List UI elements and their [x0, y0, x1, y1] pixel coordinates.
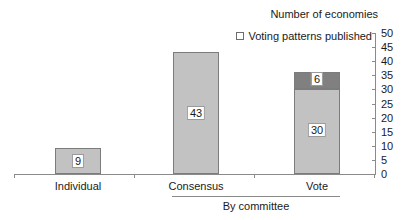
- x-axis-tick: [254, 175, 255, 178]
- bar-value-vote-upper: 6: [311, 72, 323, 86]
- x-axis-tick: [134, 175, 135, 178]
- y-axis-label: 5: [381, 154, 387, 165]
- category-label-consensus: Consensus: [168, 180, 223, 193]
- bar-value-vote-base: 30: [308, 123, 326, 137]
- bar-individual[interactable]: 9: [55, 148, 101, 174]
- y-axis-tick: [372, 132, 376, 133]
- y-axis-tick: [372, 118, 376, 119]
- y-axis-label: 40: [381, 56, 393, 67]
- category-label-individual: Individual: [55, 180, 101, 193]
- bar-consensus[interactable]: 43: [173, 52, 219, 174]
- y-axis-label: 25: [381, 98, 393, 109]
- y-axis-label: 35: [381, 70, 393, 81]
- y-axis-tick: [372, 104, 376, 105]
- group-bracket-rule: [172, 196, 340, 197]
- x-axis-baseline: [14, 174, 375, 175]
- y-axis-label: 10: [381, 140, 393, 151]
- y-axis-tick: [372, 89, 376, 90]
- y-axis-tick: [372, 174, 376, 175]
- group-bracket-label: By committee: [223, 200, 290, 213]
- y-axis-tick: [372, 160, 376, 161]
- y-axis-label: 20: [381, 112, 393, 123]
- y-axis-label: 15: [381, 126, 393, 137]
- y-axis-label: 45: [381, 42, 393, 53]
- x-axis-tick: [374, 175, 375, 178]
- bar-vote[interactable]: 6 30: [294, 72, 340, 174]
- y-axis-label: 0: [381, 169, 387, 180]
- y-axis-tick: [372, 61, 376, 62]
- y-axis-line: [375, 33, 376, 175]
- bar-value-individual: 9: [72, 154, 84, 168]
- plot-area: 9 43 6 30: [14, 33, 375, 175]
- bar-value-consensus: 43: [187, 106, 205, 120]
- x-axis-tick: [14, 175, 15, 178]
- chart-container: Number of economies Voting patterns publ…: [0, 0, 408, 220]
- y-axis-label: 30: [381, 84, 393, 95]
- y-axis-tick: [372, 47, 376, 48]
- y-axis-tick: [372, 75, 376, 76]
- y-axis-label: 50: [381, 28, 393, 39]
- y-axis-tick: [372, 33, 376, 34]
- y-axis-title: Number of economies: [270, 8, 378, 21]
- y-axis-tick: [372, 146, 376, 147]
- category-label-vote: Vote: [306, 180, 328, 193]
